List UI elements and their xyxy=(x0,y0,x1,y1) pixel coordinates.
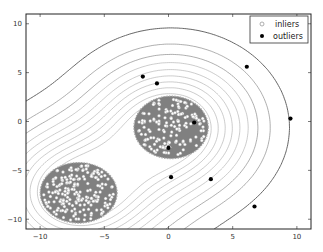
inlier-point xyxy=(86,182,89,185)
inlier-point xyxy=(170,124,173,127)
inlier-point xyxy=(90,212,93,215)
inlier-point xyxy=(189,138,192,141)
inlier-point xyxy=(46,183,49,186)
inlier-point xyxy=(164,124,167,127)
inlier-point xyxy=(75,175,78,178)
inlier-point xyxy=(149,119,152,122)
inlier-point xyxy=(61,209,64,212)
inlier-point xyxy=(58,189,61,192)
inlier-point xyxy=(155,120,158,123)
inlier-point xyxy=(163,142,166,145)
inlier-point xyxy=(171,104,174,107)
inlier-point xyxy=(170,117,173,120)
inlier-point xyxy=(194,136,197,139)
inlier-point xyxy=(165,121,168,124)
inlier-point xyxy=(54,176,57,179)
inlier-point xyxy=(189,122,192,125)
inlier-point xyxy=(52,183,55,186)
outlier-point xyxy=(155,81,159,85)
inlier-point xyxy=(62,199,65,202)
inlier-point xyxy=(73,183,76,186)
outlier-point xyxy=(166,146,170,150)
inlier-point xyxy=(177,120,180,123)
inlier-point xyxy=(172,121,175,124)
inlier-point xyxy=(179,152,182,155)
inlier-point xyxy=(92,200,95,203)
inlier-point xyxy=(168,141,171,144)
inlier-point xyxy=(175,140,178,143)
inlier-point xyxy=(81,169,84,172)
inlier-point xyxy=(56,169,59,172)
inlier-point xyxy=(47,191,50,194)
inlier-point xyxy=(83,203,86,206)
inlier-point xyxy=(85,195,88,198)
inlier-point xyxy=(192,115,195,118)
inlier-point xyxy=(86,189,89,192)
inlier-point xyxy=(185,126,188,129)
inlier-point xyxy=(55,196,58,199)
inlier-point xyxy=(143,112,146,115)
inlier-point xyxy=(100,212,103,215)
inlier-point xyxy=(138,121,141,124)
inlier-point xyxy=(152,118,155,121)
inlier-point xyxy=(177,105,180,108)
inlier-point xyxy=(68,198,71,201)
inlier-point xyxy=(96,200,99,203)
inlier-point xyxy=(150,147,153,150)
inlier-point xyxy=(149,136,152,139)
inlier-point xyxy=(85,168,88,171)
inlier-point xyxy=(176,110,179,113)
inlier-point xyxy=(82,208,85,211)
inlier-point xyxy=(90,204,93,207)
inlier-point xyxy=(169,110,172,113)
inlier-point xyxy=(190,103,193,106)
inlier-point xyxy=(77,218,80,221)
inlier-point xyxy=(75,202,78,205)
inlier-point xyxy=(182,148,185,151)
inlier-point xyxy=(180,113,183,116)
inlier-point xyxy=(54,191,57,194)
outlier-marker-icon xyxy=(260,34,264,38)
inlier-point xyxy=(90,175,93,178)
inlier-point xyxy=(87,208,90,211)
inlier-point xyxy=(70,173,73,176)
inlier-regions xyxy=(40,96,208,223)
inlier-point xyxy=(200,139,203,142)
outlier-point xyxy=(141,74,145,78)
inlier-point xyxy=(90,197,93,200)
inlier-point xyxy=(101,187,104,190)
inlier-point xyxy=(148,112,151,115)
inlier-point xyxy=(166,110,169,113)
inlier-point xyxy=(72,215,75,218)
inlier-point xyxy=(94,191,97,194)
inlier-point xyxy=(153,150,156,153)
inlier-point xyxy=(175,99,178,102)
x-tick-label: 5 xyxy=(230,233,234,241)
inlier-point xyxy=(185,122,188,125)
inlier-point xyxy=(200,129,203,132)
inlier-point xyxy=(104,197,107,200)
legend: inliers outliers xyxy=(250,16,308,43)
chart: −10−50510 −10−50510 inliers outliers xyxy=(0,0,323,252)
inlier-point xyxy=(69,218,72,221)
inlier-point xyxy=(152,136,155,139)
inlier-point xyxy=(179,143,182,146)
inlier-point xyxy=(164,116,167,119)
inlier-point xyxy=(79,210,82,213)
inlier-point xyxy=(97,196,100,199)
legend-label-inliers: inliers xyxy=(275,20,299,29)
inlier-point xyxy=(68,202,71,205)
inlier-point xyxy=(46,205,49,208)
inlier-point xyxy=(100,171,103,174)
inlier-point xyxy=(85,164,88,167)
inlier-point xyxy=(63,205,66,208)
inlier-point xyxy=(86,171,89,174)
inlier-point xyxy=(49,195,52,198)
inlier-point xyxy=(53,210,56,213)
inlier-point xyxy=(52,180,55,183)
inlier-point xyxy=(70,166,73,169)
inlier-point xyxy=(66,196,69,199)
inlier-point xyxy=(42,193,45,196)
inlier-point xyxy=(195,117,198,120)
inlier-point xyxy=(70,210,73,213)
